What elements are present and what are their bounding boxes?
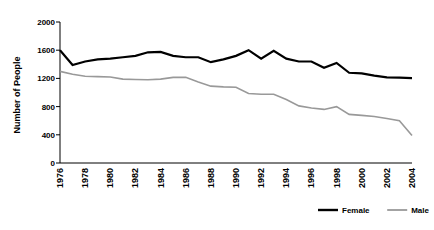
x-tick-label: 1980 bbox=[105, 168, 115, 188]
series-line-male bbox=[60, 71, 412, 135]
x-tick-label: 2000 bbox=[357, 168, 367, 188]
y-tick-label: 800 bbox=[42, 103, 56, 112]
x-tick-label: 1986 bbox=[181, 168, 191, 188]
line-chart-figure: Number of People 0400800120016002000 197… bbox=[0, 0, 434, 230]
x-tick-label: 1992 bbox=[256, 168, 266, 188]
x-tick-label: 1996 bbox=[306, 168, 316, 188]
x-axis-tick-labels: 1976197819801982198419861988199019921994… bbox=[55, 168, 417, 188]
chart-canvas: Number of People 0400800120016002000 197… bbox=[0, 0, 434, 230]
y-axis-tick-labels: 0400800120016002000 bbox=[37, 18, 55, 168]
y-tick-label: 0 bbox=[51, 159, 56, 168]
legend-label-female: Female bbox=[342, 206, 370, 215]
series-line-female bbox=[60, 50, 412, 78]
legend-label-male: Male bbox=[411, 206, 429, 215]
y-tick-label: 400 bbox=[42, 131, 56, 140]
y-axis-title: Number of People bbox=[12, 56, 22, 133]
y-axis-tick-marks bbox=[56, 22, 60, 163]
data-series-group bbox=[60, 50, 412, 135]
x-tick-label: 1994 bbox=[281, 168, 291, 188]
x-tick-label: 2002 bbox=[382, 168, 392, 188]
x-tick-label: 1976 bbox=[55, 168, 65, 188]
x-tick-label: 1978 bbox=[80, 168, 90, 188]
x-tick-label: 1984 bbox=[156, 168, 166, 188]
x-tick-label: 1998 bbox=[332, 168, 342, 188]
x-tick-label: 1988 bbox=[206, 168, 216, 188]
x-tick-label: 2004 bbox=[407, 168, 417, 188]
y-tick-label: 1600 bbox=[37, 46, 55, 55]
y-tick-label: 2000 bbox=[37, 18, 55, 27]
x-tick-label: 1990 bbox=[231, 168, 241, 188]
y-tick-label: 1200 bbox=[37, 74, 55, 83]
x-tick-label: 1982 bbox=[130, 168, 140, 188]
chart-legend: FemaleMale bbox=[318, 206, 430, 215]
